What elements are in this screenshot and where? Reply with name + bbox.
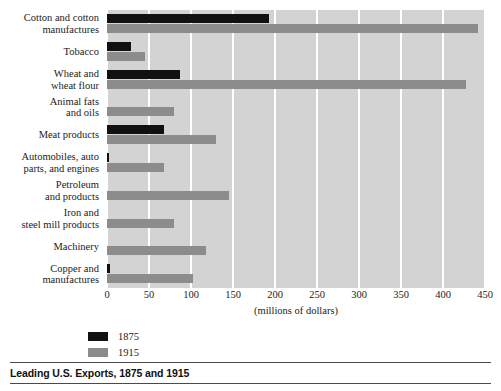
legend-label-1915: 1915 [118, 347, 139, 358]
x-axis-title: (millions of dollars) [107, 305, 485, 316]
x-tick-label: 50 [144, 289, 155, 300]
gridline [484, 10, 486, 288]
x-tick-label: 150 [225, 289, 241, 300]
bar-1875 [107, 125, 164, 134]
bar-1915 [107, 246, 206, 255]
caption-rule-bottom [10, 383, 491, 384]
bar-1915 [107, 135, 216, 144]
gridline [442, 10, 444, 288]
category-label: Meat products [0, 129, 103, 141]
category-label: Animal fatsand oils [0, 96, 103, 119]
category-label: Tobacco [0, 46, 103, 58]
bar-1915 [107, 52, 145, 61]
x-axis-tick-labels: 050100150200250300350400450 [107, 289, 485, 305]
category-axis-labels: Cotton and cottonmanufacturesTobaccoWhea… [0, 10, 103, 288]
category-label: Machinery [0, 241, 103, 253]
legend-entry-1915: 1915 [88, 346, 208, 359]
bar-1875 [107, 14, 269, 23]
category-label: Copper andmanufactures [0, 263, 103, 286]
x-tick-label: 300 [351, 289, 367, 300]
plot-area [107, 10, 485, 288]
x-tick-label: 350 [393, 289, 409, 300]
legend-swatch-1915 [88, 348, 108, 357]
gridline [358, 10, 360, 288]
bar-1875 [107, 70, 180, 79]
x-tick-label: 100 [183, 289, 199, 300]
gridline [232, 10, 234, 288]
x-tick-label: 200 [267, 289, 283, 300]
x-tick-label: 450 [477, 289, 493, 300]
bar-1915 [107, 24, 478, 33]
category-label: Petroleumand products [0, 179, 103, 202]
category-label: Wheat andwheat flour [0, 68, 103, 91]
gridline [400, 10, 402, 288]
category-label: Automobiles, autoparts, and engines [0, 151, 103, 174]
bar-1875 [107, 264, 110, 273]
chart-legend: 1875 1915 [88, 330, 208, 362]
chart-figure: Cotton and cottonmanufacturesTobaccoWhea… [0, 0, 501, 391]
legend-label-1875: 1875 [118, 331, 139, 342]
caption-title: Leading U.S. Exports, 1875 and 1915 [10, 363, 491, 383]
plot-wrapper: Cotton and cottonmanufacturesTobaccoWhea… [0, 0, 501, 300]
bar-1915 [107, 274, 193, 283]
x-tick-label: 400 [435, 289, 451, 300]
bar-1875 [107, 153, 109, 162]
legend-entry-1875: 1875 [88, 330, 208, 343]
category-label: Cotton and cottonmanufactures [0, 12, 103, 35]
bar-1915 [107, 107, 174, 116]
x-tick-label: 250 [309, 289, 325, 300]
bar-1915 [107, 191, 229, 200]
bar-1915 [107, 163, 164, 172]
caption-block: Leading U.S. Exports, 1875 and 1915 [10, 362, 491, 384]
legend-swatch-1875 [88, 332, 108, 341]
bar-1915 [107, 219, 174, 228]
bar-1875 [107, 42, 131, 51]
gridline [316, 10, 318, 288]
bar-1915 [107, 80, 466, 89]
gridline [274, 10, 276, 288]
x-tick-label: 0 [104, 289, 109, 300]
category-label: Iron andsteel mill products [0, 207, 103, 230]
